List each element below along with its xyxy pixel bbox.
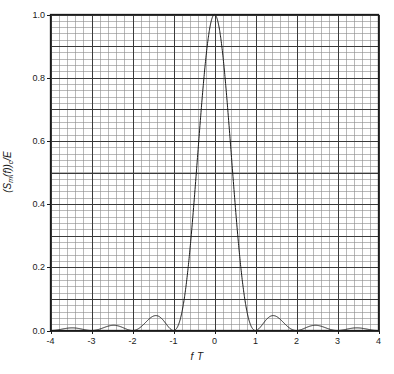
x-tick-label: 2 [294,336,299,346]
x-tick-label: 1 [253,336,258,346]
x-tick-label: 3 [335,336,340,346]
y-axis-label-sub-c: c [7,161,14,165]
x-tick-label: -1 [169,336,177,346]
y-tick-label: 0.2 [19,262,45,272]
x-axis-label-text: f T [190,351,203,362]
y-axis-label-tail: /E [2,151,13,160]
x-tick-label: -2 [128,336,136,346]
x-tick-label: 4 [376,336,381,346]
y-axis-label-sub-m: m [7,177,14,183]
y-tick-label: 0.6 [19,136,45,146]
x-tick-label: -4 [46,336,54,346]
major-gridlines [51,15,380,332]
chart-figure: 0.00.20.40.60.81.0 -4-3-2-101234 f T (Sm… [0,0,394,374]
y-tick-label: 0.8 [19,73,45,83]
sinc-squared-plot [0,0,394,374]
y-axis-label: (Sm(f))c/E [2,151,13,193]
y-tick-label: 0.0 [19,326,45,336]
x-tick-label: 0 [212,336,217,346]
y-tick-label: 1.0 [19,10,45,20]
y-tick-label: 0.4 [19,199,45,209]
y-axis-label-mid: (f)) [2,164,13,177]
x-tick-label: -3 [87,336,95,346]
x-axis-label: f T [0,351,394,362]
y-axis-label-open: (S [2,183,13,193]
